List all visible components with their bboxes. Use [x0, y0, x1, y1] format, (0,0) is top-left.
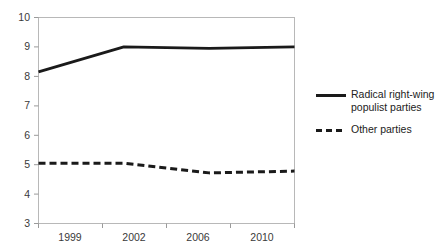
y-tick-label-10: 10	[4, 12, 30, 23]
y-tick-label-7: 7	[4, 100, 30, 111]
legend-item-other-parties: Other parties	[316, 123, 438, 137]
x-tick-label-2006: 2006	[168, 232, 228, 243]
x-tick-label-1999: 1999	[40, 232, 100, 243]
y-axis-ticks	[34, 18, 39, 224]
y-tick-label-3: 3	[4, 218, 30, 229]
solid-line-icon	[316, 88, 346, 102]
legend-label-other-parties: Other parties	[351, 123, 412, 136]
line-chart: 10 9 8 7 6 5 4 3 1999 2002 2006 2010 Rad…	[0, 0, 438, 247]
y-tick-label-8: 8	[4, 71, 30, 82]
x-tick-label-2010: 2010	[232, 232, 292, 243]
y-tick-label-6: 6	[4, 130, 30, 141]
y-tick-label-9: 9	[4, 41, 30, 52]
series-line-radical-right-wing	[39, 47, 295, 72]
y-tick-label-5: 5	[4, 159, 30, 170]
y-tick-label-4: 4	[4, 189, 30, 200]
legend-label-radical-right-wing: Radical right-wing populist parties	[351, 88, 434, 113]
legend-item-radical-right-wing: Radical right-wing populist parties	[316, 88, 438, 113]
chart-legend: Radical right-wing populist parties Othe…	[316, 88, 438, 147]
x-tick-label-2002: 2002	[104, 232, 164, 243]
dashed-line-icon	[316, 123, 346, 137]
x-axis-ticks	[39, 224, 295, 229]
series-line-other-parties	[39, 163, 295, 173]
